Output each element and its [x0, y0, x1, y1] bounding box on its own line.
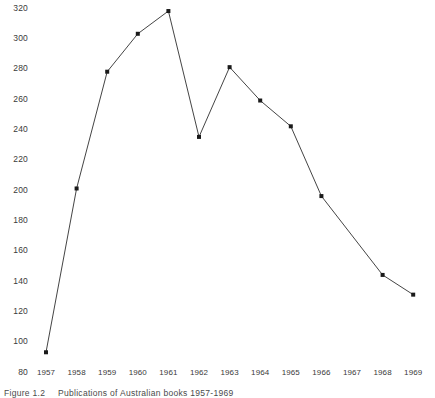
y-tick-label: 260 [2, 95, 28, 104]
data-point-marker [75, 186, 79, 190]
x-tick-label: 1966 [306, 368, 336, 377]
y-tick-label: 100 [2, 337, 28, 346]
data-point-marker [44, 350, 48, 354]
y-tick-label: 120 [2, 307, 28, 316]
y-tick-label: 280 [2, 64, 28, 73]
y-tick-label: 300 [2, 34, 28, 43]
figure-caption-number: Figure 1.2 [4, 388, 45, 398]
figure-container: 32030028026024022020018016014012010080 1… [0, 0, 435, 398]
data-point-marker [381, 273, 385, 277]
data-point-markers [44, 9, 415, 354]
x-tick-label: 1964 [245, 368, 275, 377]
y-tick-label: 200 [2, 186, 28, 195]
x-tick-label: 1967 [337, 368, 367, 377]
data-point-marker [258, 99, 262, 103]
y-tick-label: 320 [2, 4, 28, 13]
y-tick-label: 140 [2, 277, 28, 286]
x-tick-label: 1965 [276, 368, 306, 377]
x-tick-label: 1963 [215, 368, 245, 377]
x-tick-label: 1968 [368, 368, 398, 377]
data-point-marker [289, 124, 293, 128]
y-tick-label: 160 [2, 246, 28, 255]
y-tick-label: 80 [2, 368, 28, 377]
x-tick-label: 1958 [62, 368, 92, 377]
data-point-marker [411, 293, 415, 297]
x-tick-label: 1959 [92, 368, 122, 377]
y-tick-label: 220 [2, 155, 28, 164]
line-chart-plot [0, 0, 435, 398]
figure-caption-text: Publications of Australian books 1957-19… [58, 388, 234, 398]
x-tick-label: 1962 [184, 368, 214, 377]
data-line [46, 11, 413, 352]
data-point-marker [197, 135, 201, 139]
figure-caption: Figure 1.2 Publications of Australian bo… [4, 388, 424, 398]
y-tick-label: 240 [2, 125, 28, 134]
y-tick-label: 180 [2, 216, 28, 225]
data-point-marker [105, 70, 109, 74]
x-tick-label: 1957 [31, 368, 61, 377]
data-point-marker [228, 65, 232, 69]
x-tick-label: 1960 [123, 368, 153, 377]
x-tick-label: 1969 [398, 368, 428, 377]
data-point-marker [319, 194, 323, 198]
data-point-marker [166, 9, 170, 13]
data-point-marker [136, 32, 140, 36]
x-tick-label: 1961 [153, 368, 183, 377]
